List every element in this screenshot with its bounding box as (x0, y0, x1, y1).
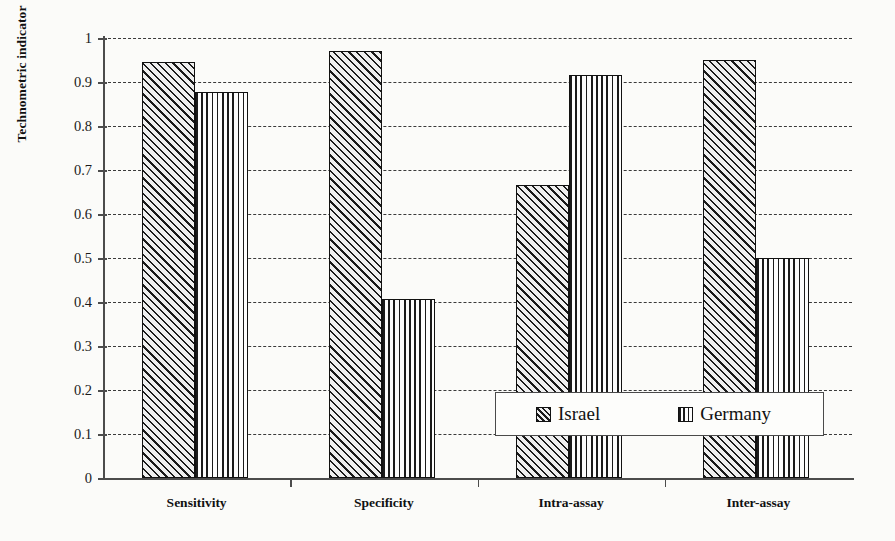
x-axis-label-sensitivity: Sensitivity (167, 495, 227, 511)
y-axis-title: Technometric indicator (14, 0, 38, 174)
bar-germany-inter-assay (756, 258, 809, 478)
x-axis-label-specificity: Specificity (354, 495, 414, 511)
bar-israel-specificity (329, 51, 382, 478)
y-tick-label: 0.3 (74, 338, 92, 355)
legend-swatch-israel-icon (536, 407, 551, 422)
legend-label-israel: Israel (558, 403, 600, 425)
y-tick-label: 0.4 (74, 294, 92, 311)
y-tick-label: 0 (85, 470, 92, 487)
y-tick-label: 0.2 (74, 382, 92, 399)
legend-item-israel: Israel (536, 403, 600, 425)
legend: Israel Germany (495, 392, 824, 436)
legend-item-germany: Germany (678, 403, 771, 425)
y-tick-label: 0.7 (74, 162, 92, 179)
x-axis-label-intra-assay: Intra-assay (538, 495, 603, 511)
bar-israel-sensitivity (142, 62, 195, 478)
bar-germany-specificity (382, 299, 435, 478)
x-axis-separator (478, 478, 480, 487)
legend-label-germany: Germany (700, 403, 771, 425)
bar-germany-sensitivity (195, 92, 248, 478)
y-tick-label: 0.6 (74, 206, 92, 223)
x-axis-separator (290, 478, 292, 487)
chart-figure: Technometric indicator 00.10.20.30.40.50… (0, 0, 895, 541)
y-tick-label: 0.8 (74, 118, 92, 135)
legend-swatch-germany-icon (678, 407, 693, 422)
y-tick-label: 0.1 (74, 426, 92, 443)
y-tick-label: 1 (85, 30, 92, 47)
x-axis-label-inter-assay: Inter-assay (726, 495, 790, 511)
y-tick-label: 0.5 (74, 250, 92, 267)
y-tick-label: 0.9 (74, 74, 92, 91)
x-axis-separator (665, 478, 667, 487)
